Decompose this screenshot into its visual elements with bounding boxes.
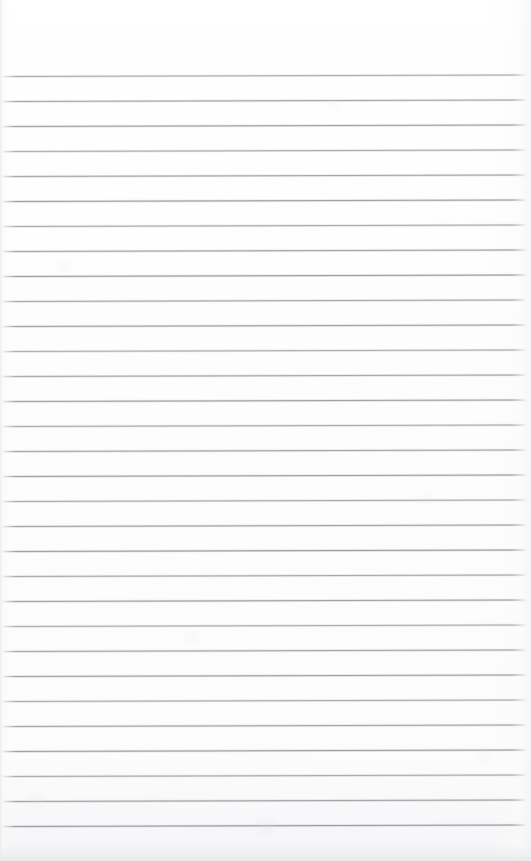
ruled-line	[2, 475, 526, 477]
ruled-line	[2, 325, 526, 327]
rule-right-fade	[512, 374, 526, 377]
ruled-line	[2, 625, 526, 627]
rule-left-fade	[2, 625, 16, 628]
ruled-line	[2, 100, 526, 102]
rule-right-fade	[512, 499, 526, 502]
rule-right-fade	[512, 399, 526, 402]
rule-left-fade	[2, 425, 16, 428]
ruled-line	[2, 700, 526, 702]
rule-right-fade	[512, 474, 526, 477]
ruled-line	[2, 125, 526, 127]
ruled-line	[2, 275, 526, 277]
ruled-line	[2, 725, 526, 727]
rule-left-fade	[2, 450, 16, 453]
ruled-line	[2, 575, 526, 577]
ruled-lines-layer	[0, 0, 531, 861]
rule-right-fade	[512, 224, 526, 227]
ruled-line	[2, 450, 526, 452]
rule-left-fade	[2, 350, 16, 353]
rule-left-fade	[2, 600, 16, 603]
scanned-page	[0, 0, 531, 861]
rule-right-fade	[512, 299, 526, 302]
ruled-line	[2, 800, 526, 802]
rule-left-fade	[2, 250, 16, 253]
rule-left-fade	[2, 325, 16, 328]
rule-right-fade	[512, 149, 526, 152]
ruled-line	[2, 525, 526, 527]
rule-right-fade	[512, 824, 526, 827]
rule-left-fade	[2, 225, 16, 228]
ruled-line	[2, 400, 526, 402]
rule-left-fade	[2, 400, 16, 403]
rule-right-fade	[512, 774, 526, 777]
rule-left-fade	[2, 575, 16, 578]
rule-right-fade	[512, 649, 526, 652]
rule-left-fade	[2, 75, 16, 78]
rule-right-fade	[512, 724, 526, 727]
rule-left-fade	[2, 175, 16, 178]
ruled-line	[2, 550, 526, 552]
rule-left-fade	[2, 725, 16, 728]
rule-right-fade	[512, 624, 526, 627]
ruled-line	[2, 150, 526, 152]
rule-left-fade	[2, 525, 16, 528]
rule-left-fade	[2, 150, 16, 153]
rule-right-fade	[512, 124, 526, 127]
rule-left-fade	[2, 700, 16, 703]
ruled-line	[2, 250, 526, 252]
ruled-line	[2, 175, 526, 177]
rule-left-fade	[2, 500, 16, 503]
rule-left-fade	[2, 675, 16, 678]
ruled-line	[2, 825, 526, 827]
rule-left-fade	[2, 200, 16, 203]
rule-right-fade	[512, 349, 526, 352]
rule-left-fade	[2, 125, 16, 128]
rule-left-fade	[2, 275, 16, 278]
rule-right-fade	[512, 424, 526, 427]
rule-left-fade	[2, 775, 16, 778]
rule-right-fade	[512, 574, 526, 577]
rule-left-fade	[2, 475, 16, 478]
rule-right-fade	[512, 699, 526, 702]
ruled-line	[2, 225, 526, 227]
ruled-line	[2, 675, 526, 677]
rule-right-fade	[512, 174, 526, 177]
rule-right-fade	[512, 274, 526, 277]
rule-left-fade	[2, 800, 16, 803]
ruled-line	[2, 425, 526, 427]
ruled-line	[2, 75, 526, 77]
ruled-line	[2, 300, 526, 302]
rule-left-fade	[2, 100, 16, 103]
ruled-line	[2, 750, 526, 752]
rule-left-fade	[2, 375, 16, 378]
rule-right-fade	[512, 449, 526, 452]
rule-right-fade	[512, 749, 526, 752]
ruled-line	[2, 375, 526, 377]
ruled-line	[2, 200, 526, 202]
ruled-line	[2, 650, 526, 652]
ruled-line	[2, 775, 526, 777]
rule-left-fade	[2, 750, 16, 753]
rule-right-fade	[512, 324, 526, 327]
ruled-line	[2, 500, 526, 502]
rule-left-fade	[2, 300, 16, 303]
rule-right-fade	[512, 799, 526, 802]
rule-left-fade	[2, 825, 16, 828]
ruled-line	[2, 600, 526, 602]
rule-right-fade	[512, 99, 526, 102]
rule-right-fade	[512, 674, 526, 677]
rule-right-fade	[512, 524, 526, 527]
rule-left-fade	[2, 550, 16, 553]
rule-right-fade	[512, 74, 526, 77]
rule-left-fade	[2, 650, 16, 653]
rule-right-fade	[512, 249, 526, 252]
ruled-line	[2, 350, 526, 352]
rule-right-fade	[512, 199, 526, 202]
rule-right-fade	[512, 599, 526, 602]
rule-right-fade	[512, 549, 526, 552]
